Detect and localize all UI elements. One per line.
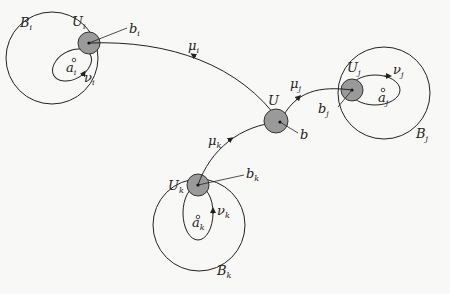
label-a-i: ai	[66, 60, 77, 77]
label-b-j: Bj	[415, 126, 429, 143]
path-mu-k	[198, 122, 280, 185]
label-base-b-k: bk	[246, 166, 259, 183]
label-nu-j: νj	[393, 62, 404, 79]
label-a-j: aj	[378, 90, 389, 107]
label-a-k: ak	[192, 215, 205, 232]
diagram-svg: Bi Ui bi ai νi μi Uj νj aj Bj bj μj Uk b…	[0, 0, 450, 294]
label-b-k: Bk	[216, 263, 232, 280]
label-u: U	[268, 93, 280, 108]
label-u-i: Ui	[72, 14, 86, 31]
label-b: b	[300, 127, 308, 142]
label-mu-j: μj	[290, 76, 301, 93]
label-base-b-i: bi	[129, 21, 140, 38]
label-nu-k: νk	[217, 203, 230, 220]
arrow-mu-i	[193, 55, 196, 57]
label-nu-i: νi	[84, 70, 95, 87]
label-base-b-j: bj	[318, 101, 329, 118]
label-u-k: Uk	[168, 178, 184, 195]
label-u-j: Uj	[347, 60, 361, 77]
path-mu-i	[89, 43, 280, 122]
diagram-canvas: Bi Ui bi ai νi μi Uj νj aj Bj bj μj Uk b…	[0, 0, 450, 294]
label-mu-i: μi	[188, 38, 199, 55]
label-mu-k: μk	[208, 133, 221, 150]
nbhd-u	[264, 109, 288, 133]
center-node-u	[89, 43, 352, 185]
